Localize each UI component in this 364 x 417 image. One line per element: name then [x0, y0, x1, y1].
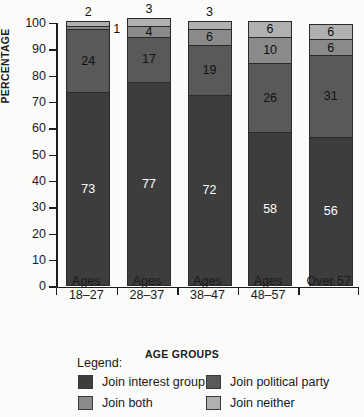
bar-segment[interactable]: 31: [310, 56, 352, 138]
segment-value-label: 6: [267, 23, 274, 36]
y-tick-mark: [49, 23, 56, 24]
legend-item[interactable]: Join interest group: [78, 375, 206, 389]
bar-5[interactable]: 663156: [309, 24, 353, 287]
y-tick-mark: [49, 234, 56, 235]
x-category-label: Ages38–47: [173, 274, 243, 302]
bar-3[interactable]: 361972: [188, 21, 232, 286]
segment-value-label: 58: [263, 203, 277, 216]
bar-segment[interactable]: 6: [310, 40, 352, 56]
y-tick-label: 30: [12, 200, 46, 214]
bar-segment[interactable]: 17: [128, 38, 170, 83]
y-tick-mark: [49, 155, 56, 156]
legend-item[interactable]: Join both: [78, 396, 206, 410]
x-category-line2: 38–47: [173, 288, 243, 302]
y-tick-label: 10: [12, 253, 46, 267]
segment-value-label: 73: [81, 183, 95, 196]
legend-label: Join neither: [230, 396, 295, 410]
bar-segment[interactable]: 58: [249, 133, 291, 286]
bar-segment[interactable]: 10: [249, 38, 291, 64]
x-category-label: Ages48–57: [233, 274, 303, 302]
y-tick-label: 100: [12, 16, 46, 30]
legend-swatch: [206, 375, 221, 389]
legend-swatch: [206, 396, 221, 410]
segment-value-label: 24: [81, 55, 95, 68]
x-category-line2: 18–27: [51, 288, 121, 302]
plot-area: 0102030405060708090100 21247334177736197…: [56, 23, 359, 288]
y-tick-mark: [49, 76, 56, 77]
legend-item[interactable]: Join neither: [206, 396, 334, 410]
bar-segment[interactable]: 73: [67, 93, 109, 285]
bar-segment[interactable]: 56: [310, 138, 352, 286]
legend: Legend: Join interest groupJoin politica…: [78, 356, 364, 410]
y-tick-label: 80: [12, 69, 46, 83]
x-category-label: Ages28–37: [112, 274, 182, 302]
bar-segment[interactable]: 4: [128, 27, 170, 38]
x-category-line2: 28–37: [112, 288, 182, 302]
y-tick-label: 50: [12, 148, 46, 162]
y-tick-mark: [49, 128, 56, 129]
legend-swatch: [78, 375, 93, 389]
x-category-line2: 48–57: [233, 288, 303, 302]
bar-segment[interactable]: 77: [128, 83, 170, 286]
x-category-label: Over 57: [294, 274, 364, 288]
bar-segment[interactable]: 72: [189, 96, 231, 286]
y-axis-title: PERCENTAGE: [0, 6, 11, 126]
y-tick-mark: [49, 207, 56, 208]
legend-label: Join interest group: [102, 375, 205, 389]
y-tick-label: 40: [12, 174, 46, 188]
segment-value-label: 3: [206, 6, 213, 19]
segment-value-label: 1: [113, 23, 120, 36]
segment-value-label: 3: [145, 3, 152, 16]
legend-items: Join interest groupJoin political partyJ…: [78, 375, 364, 410]
stacked-bar-chart: PERCENTAGE 0102030405060708090100 212473…: [0, 0, 364, 417]
segment-value-label: 31: [324, 90, 338, 103]
segment-value-label: 19: [203, 64, 217, 77]
bar-segment[interactable]: 3: [189, 22, 231, 30]
bar-1[interactable]: 212473: [66, 21, 110, 286]
segment-value-label: 56: [324, 205, 338, 218]
x-category-label: Ages18–27: [51, 274, 121, 302]
bar-2[interactable]: 341777: [127, 18, 171, 286]
segment-value-label: 2: [85, 6, 92, 19]
bar-segment[interactable]: 19: [189, 46, 231, 96]
segment-value-label: 17: [142, 53, 156, 66]
segment-value-label: 26: [263, 92, 277, 105]
y-tick-label: 90: [12, 42, 46, 56]
y-tick-mark: [49, 260, 56, 261]
y-tick-label: 60: [12, 121, 46, 135]
segment-value-label: 72: [203, 184, 217, 197]
y-tick-mark: [49, 49, 56, 50]
legend-swatch: [78, 396, 93, 410]
segment-value-label: 10: [263, 44, 277, 57]
segment-value-label: 4: [145, 26, 152, 39]
bar-segment[interactable]: 6: [310, 25, 352, 41]
legend-item[interactable]: Join political party: [206, 375, 334, 389]
bar-segment[interactable]: 26: [249, 64, 291, 132]
y-tick-mark: [49, 102, 56, 103]
bar-4[interactable]: 6102658: [248, 21, 292, 286]
x-category-line1: Ages: [133, 274, 162, 288]
y-tick-label: 20: [12, 227, 46, 241]
legend-label: Join both: [102, 396, 153, 410]
bar-segment[interactable]: 6: [249, 22, 291, 38]
segment-value-label: 6: [206, 31, 213, 44]
x-category-line1: Ages: [193, 274, 222, 288]
x-category-line1: Ages: [254, 274, 283, 288]
x-category-line1: Over 57: [306, 274, 350, 288]
bar-segment[interactable]: 24: [67, 30, 109, 93]
segment-value-label: 6: [327, 26, 334, 39]
y-tick-mark: [49, 181, 56, 182]
x-category-line1: Ages: [72, 274, 101, 288]
y-tick-label: 70: [12, 95, 46, 109]
bar-segment[interactable]: 6: [189, 30, 231, 46]
segment-value-label: 6: [327, 42, 334, 55]
legend-label: Join political party: [230, 375, 329, 389]
y-axis-line: [56, 23, 58, 288]
legend-title: Legend:: [77, 356, 364, 370]
segment-value-label: 77: [142, 178, 156, 191]
y-tick-label: 0: [12, 279, 46, 293]
